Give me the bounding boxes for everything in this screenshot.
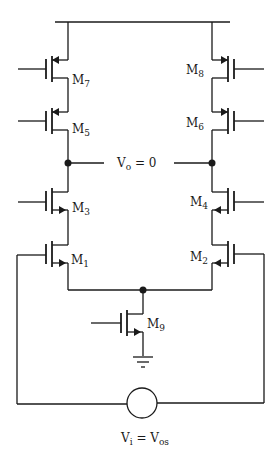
transistor-m6: M6	[186, 108, 264, 134]
transistor-m7: M7	[18, 22, 90, 89]
arrow-icon	[52, 56, 59, 64]
label-m6: M6	[186, 116, 204, 132]
transistor-m3: M3	[18, 188, 90, 217]
transistor-m1: M1	[17, 241, 89, 269]
label-m8: M8	[186, 63, 204, 79]
ground-icon	[133, 357, 153, 367]
label-m1: M1	[71, 253, 89, 269]
transistor-m4: M4	[190, 188, 264, 214]
label-m3: M3	[72, 201, 90, 217]
source-voltage-label: Vi = Vos	[120, 431, 169, 447]
transistor-m8: M8	[186, 22, 264, 82]
voltage-source-icon	[127, 388, 157, 418]
arrow-icon	[221, 56, 228, 64]
label-m9: M9	[147, 317, 165, 333]
label-m5: M5	[72, 122, 90, 138]
circuit-diagram: M7 M5 M3 M1	[0, 0, 279, 460]
label-m4: M4	[190, 195, 208, 211]
arrow-icon	[221, 108, 228, 116]
arrow-icon	[52, 108, 59, 116]
output-voltage-label: Vo = 0	[116, 156, 156, 172]
transistor-m9: M9	[91, 290, 165, 356]
transistor-m5: M5	[18, 108, 90, 138]
arrow-icon	[134, 328, 141, 336]
arrow-icon	[214, 206, 221, 214]
arrow-icon	[59, 206, 66, 214]
arrow-icon	[59, 259, 66, 267]
label-m2: M2	[190, 250, 208, 266]
transistor-m2: M2	[190, 241, 264, 267]
label-m7: M7	[72, 73, 90, 89]
arrow-icon	[214, 259, 221, 267]
